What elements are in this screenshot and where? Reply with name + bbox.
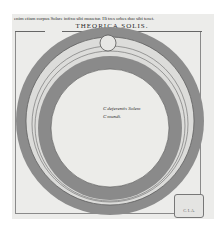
label-world-center: C mundi.	[103, 114, 121, 120]
sun-body-icon	[100, 35, 116, 51]
inner-disc	[51, 69, 169, 187]
library-stamp: C. I. A.	[174, 194, 204, 218]
label-deferent-center: C deferentis Solem	[103, 106, 140, 112]
